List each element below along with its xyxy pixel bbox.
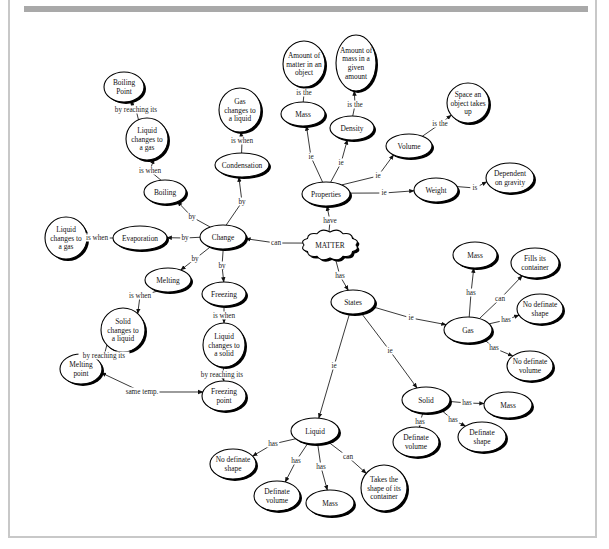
edge-label: is when [231, 137, 254, 145]
edge-label: by [218, 262, 226, 270]
edge-label: can [271, 239, 281, 247]
node-label: shape [474, 437, 492, 446]
node-label: shape [225, 464, 243, 473]
node-label: on gravity [495, 178, 525, 187]
edge-label: can [495, 295, 505, 303]
edge-label: ie [381, 189, 386, 197]
node-label: Point [116, 87, 133, 96]
node-mass_def: Amount ofmatter in anobject [283, 41, 327, 89]
edge-label: is [473, 184, 478, 192]
edge-label: has [415, 418, 425, 426]
node-label: Freezing [211, 290, 237, 299]
node-boiling_point: BoilingPoint [104, 72, 146, 104]
node-label: object [295, 68, 314, 77]
edge-label: ie [338, 159, 343, 167]
node-label: States [344, 298, 362, 307]
edge-label: ie [308, 153, 313, 161]
node-label: a liquid [229, 114, 252, 123]
edge-label: has [291, 457, 301, 465]
node-solid_volume: Definatevolume [393, 427, 441, 459]
edge-label: by reaching its [83, 352, 126, 360]
node-label: Melting [156, 276, 180, 285]
edge-label: by reaching its [115, 106, 158, 114]
node-change: Change [200, 225, 248, 251]
edge-label: has [316, 463, 326, 471]
edge-label: same temp. [126, 388, 159, 396]
node-evaporation: Evaporation [113, 226, 169, 252]
node-gas: Gas [444, 317, 494, 345]
node-label: up [464, 107, 472, 116]
node-label: Volume [398, 142, 422, 151]
node-label: a gas [140, 143, 155, 152]
node-liquid: Liquid [291, 418, 341, 446]
edge-label: is when [86, 234, 109, 242]
edge-label: ie [408, 314, 413, 322]
edge-label: has [466, 289, 476, 297]
node-states: States [331, 290, 377, 316]
node-weight_def: Dependenton gravity [486, 163, 536, 195]
edge-label: by reaching its [201, 371, 244, 379]
node-label: Boiling [154, 188, 176, 197]
node-liq_volume: Definatevolume [254, 481, 302, 513]
edge-label: has [462, 399, 472, 407]
edge-label: is the [296, 89, 311, 97]
node-label: Properties [311, 190, 341, 199]
node-gas_shape: No definateshape [517, 294, 565, 326]
node-label: a gas [59, 242, 74, 251]
node-label: a solid [214, 349, 234, 358]
edge-label: has [489, 344, 499, 352]
node-label: Mass [467, 251, 483, 260]
edge-label: by [238, 198, 246, 206]
node-freezing: Freezing [202, 282, 248, 308]
node-label: Condensation [222, 161, 263, 170]
node-label: Density [341, 124, 364, 133]
node-label: Mass [322, 499, 338, 508]
node-label: Change [212, 233, 235, 242]
edge-label: has [268, 440, 278, 448]
node-matter: MATTER [303, 230, 360, 262]
node-gas_fills: Fills itscontainer [511, 248, 561, 280]
node-label: Mass [500, 401, 516, 410]
node-boil_def: Liquidchanges toa gas [126, 118, 170, 162]
node-label: Mass [295, 110, 311, 119]
edge-properties-volume [342, 155, 394, 185]
node-properties: Properties [302, 182, 352, 208]
edge-label: is when [139, 167, 162, 175]
edge-label: by [181, 234, 189, 242]
node-label: volume [266, 496, 289, 505]
edge-label: is when [129, 292, 152, 300]
node-solid_shape: Definateshape [458, 422, 508, 454]
node-label: amount [345, 72, 368, 81]
node-label: container [521, 263, 549, 272]
node-label: container [370, 492, 398, 501]
node-label: Liquid [305, 427, 325, 436]
node-freezing_point: Freezingpoint [202, 381, 248, 413]
node-label: a liquid [112, 334, 135, 343]
node-liq_shape: No definateshape [210, 449, 258, 481]
node-mass_p: Mass [281, 102, 327, 128]
node-solid: Solid [402, 387, 452, 415]
node-weight: Weight [414, 178, 460, 204]
node-density: Density [330, 116, 376, 142]
edge-label: is the [432, 120, 447, 128]
edge-label: have [323, 217, 337, 225]
node-label: Gas [462, 326, 474, 335]
node-liq_mass: Mass [306, 490, 356, 518]
node-label: Evaporation [122, 234, 158, 243]
node-gas_mass: Mass [453, 242, 499, 270]
edge-label: by [188, 213, 196, 221]
node-density_def: Amount ofmass in agivenamount [336, 35, 378, 93]
edge-label: by [191, 255, 199, 263]
node-liq_container: Takes theshape of itscontainer [361, 465, 409, 513]
node-cond_def: Gaschanges toa liquid [219, 88, 263, 134]
node-evap_def: Liquidchanges toa gas [45, 217, 89, 261]
node-melt_def: Solidchanges toa liquid [101, 308, 147, 354]
node-solid_mass: Mass [484, 392, 534, 420]
edge-label: has [335, 272, 345, 280]
node-boiling: Boiling [144, 180, 188, 206]
node-volume_def: Space anobject takesup [447, 83, 491, 125]
node-freeze_def: Liquidchanges toa solid [203, 323, 247, 369]
node-label: shape [532, 309, 550, 318]
node-condensation: Condensation [215, 153, 271, 179]
edge-label: can [343, 453, 353, 461]
